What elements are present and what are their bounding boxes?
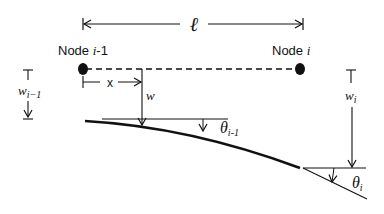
node-left-dot [78, 63, 88, 75]
right-slope-label: θi [352, 174, 363, 193]
beam-element-diagram: ℓ Node i-1 Node i x w wi−1 wi θi-1 θi [0, 0, 384, 214]
position-label: x [107, 76, 113, 90]
left-slope-label: θi-1 [220, 119, 239, 138]
length-dimension: ℓ [83, 13, 303, 35]
right-slope-arrow-icon [332, 168, 334, 182]
right-deflection-label: wi [345, 88, 357, 105]
deflection-label: w [146, 88, 155, 103]
deflected-beam-curve [85, 121, 300, 168]
length-label: ℓ [190, 13, 199, 35]
left-deflection-label: wi−1 [18, 83, 41, 100]
position-dimension: x [83, 76, 141, 90]
left-deflection-indicator: wi−1 [18, 70, 41, 119]
node-right-label: Node i [272, 43, 311, 58]
right-deflection-indicator: wi [345, 70, 357, 167]
node-right-dot [295, 63, 305, 75]
node-left-label: Node i-1 [58, 43, 108, 58]
